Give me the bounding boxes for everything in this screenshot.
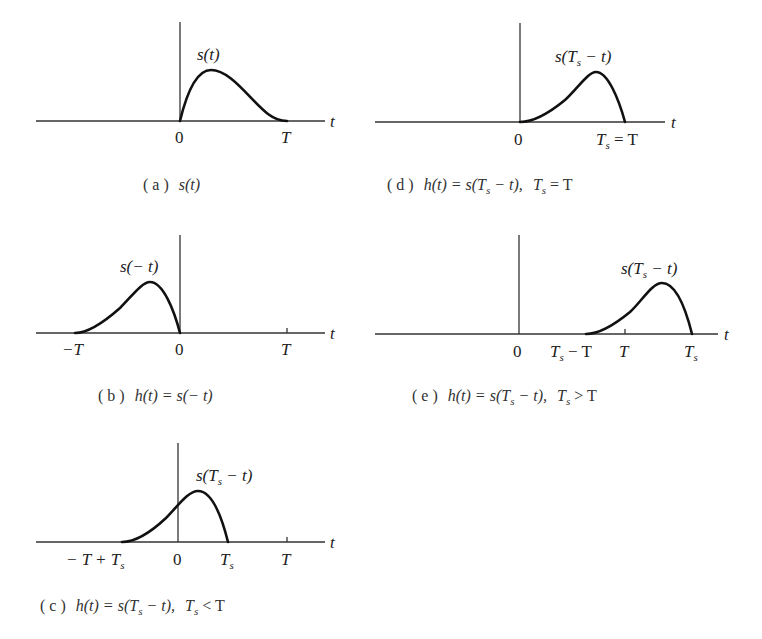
tick-label-0: 0 [173,550,182,569]
tick-label-Ts: Ts [684,342,698,363]
curve-label: s(− t) [120,257,159,276]
tick-label-T: T [281,340,292,359]
signal-curve [75,282,180,333]
curve-label: s(Ts − t) [621,259,678,280]
signal-curve [520,72,625,122]
tick-label-Ts-eq-T: Ts = T [596,130,639,151]
caption: ( e )h(t) = s(Ts − t),Ts > T [412,387,597,407]
axis-var-label: t [330,533,336,552]
tick-label-0: 0 [514,130,523,149]
caption: ( b )h(t) = s(− t) [98,387,213,405]
signal-curve [180,70,287,121]
tick-label-0: 0 [513,342,522,361]
caption: ( c )h(t) = s(Ts − t),Ts < T [40,597,225,617]
tick-label-negT-plus-Ts: − T + Ts [66,550,125,571]
signal-curve [122,491,228,542]
axis-var-label: t [671,113,677,132]
curve-label: s(Ts − t) [555,47,612,68]
panel-b: s(− t) t −T 0 T ( b )h(t) = s(− t) [36,235,336,405]
tick-label-T: T [619,342,630,361]
curve-label: s(Ts − t) [196,466,253,487]
axis-var-label: t [330,324,336,343]
caption: ( d )h(t) = s(Ts − t),Ts = T [387,176,573,196]
tick-label-0: 0 [175,340,184,359]
caption: ( a )s(t) [143,176,200,194]
panel-e: s(Ts − t) t 0 Ts − T T Ts ( e )h(t) = s(… [375,235,730,407]
tick-label-T: T [281,128,292,147]
axis-var-label: t [330,112,336,131]
tick-label-negT: −T [62,340,84,359]
panel-c: s(Ts − t) t − T + Ts 0 Ts T ( c )h(t) = … [36,443,336,617]
panel-d: s(Ts − t) t 0 Ts = T ( d )h(t) = s(Ts − … [375,23,677,196]
tick-label-0: 0 [175,128,184,147]
matched-filter-figure: s(t) t 0 T ( a )s(t) s(Ts − t) t 0 Ts = … [0,0,762,639]
panel-a: s(t) t 0 T ( a )s(t) [36,22,336,194]
axis-var-label: t [724,325,730,344]
tick-label-Ts-minus-T: Ts − T [550,342,593,363]
signal-curve [586,283,692,334]
curve-label: s(t) [197,45,220,64]
tick-label-Ts: Ts [220,550,234,571]
tick-label-T: T [281,550,292,569]
